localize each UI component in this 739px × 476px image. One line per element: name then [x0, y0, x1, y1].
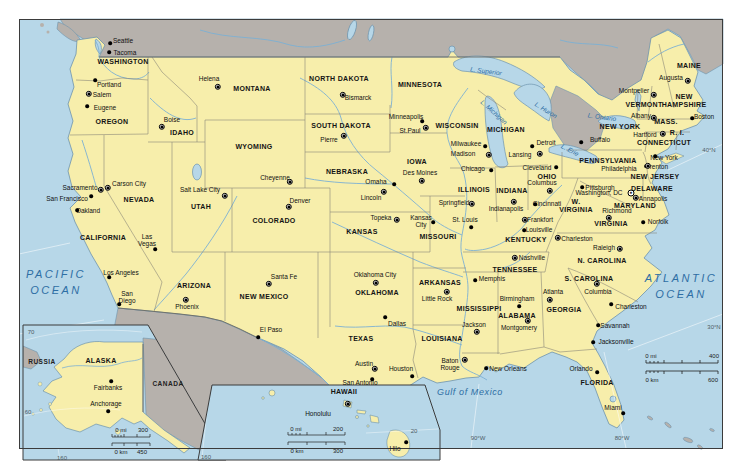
state-label: R. I. — [670, 129, 684, 137]
city-label: Santa Fe — [271, 273, 297, 280]
city-label: Cheyenne — [260, 174, 290, 181]
state-label: UTAH — [191, 203, 211, 211]
city-label: Nashville — [519, 254, 545, 261]
graticule-label: 20 — [411, 428, 418, 435]
city-marker — [106, 409, 110, 413]
scale-label: 450 — [137, 449, 147, 456]
capital-marker — [594, 281, 600, 287]
city-label: Milwaukee — [451, 140, 482, 147]
city-label: Oklahoma City — [354, 271, 397, 278]
city-marker — [392, 182, 396, 186]
city-marker — [117, 302, 121, 306]
city-label: St.Paul — [400, 127, 421, 134]
state-label: KENTUCKY — [505, 236, 546, 244]
ocean-label: ATLANTIC OCEAN — [645, 271, 717, 303]
city-label: Las Vegas — [138, 233, 156, 248]
city-marker — [431, 220, 435, 224]
city-label: Frankfort — [527, 216, 553, 223]
capital-marker — [522, 217, 528, 223]
city-label: Louisville — [526, 226, 553, 233]
capital-marker — [617, 246, 623, 252]
capital-marker — [266, 281, 272, 287]
city-label: Kansas City — [410, 214, 432, 229]
state-label: NEVADA — [124, 196, 155, 204]
state-label: W. VIRGINIA — [559, 198, 593, 214]
capital-marker — [547, 188, 553, 194]
state-label: MARYLAND — [614, 202, 656, 210]
city-label: Philadelphia — [601, 165, 636, 172]
capital-marker — [555, 235, 561, 241]
state-label: MINNESOTA — [398, 81, 442, 89]
city-marker — [473, 278, 477, 282]
city-label: Carson City — [112, 180, 146, 187]
city-label: Charleston — [615, 303, 646, 310]
state-label: ARKANSAS — [419, 279, 461, 287]
capital-marker — [287, 179, 293, 185]
state-label: ARIZONA — [177, 282, 211, 290]
city-marker — [484, 366, 488, 370]
sea-label: Gulf of Mexico — [437, 387, 503, 397]
city-label: Anchorage — [90, 400, 121, 407]
city-label: Baton Rouge — [440, 357, 459, 372]
state-label: KANSAS — [346, 228, 377, 236]
scale-label: 600 — [708, 377, 718, 384]
city-marker — [641, 220, 645, 224]
lake-label: L. Erie — [560, 142, 580, 157]
city-label: Springfield — [439, 199, 470, 206]
city-label: Boston — [694, 113, 714, 120]
city-label: Seattle — [113, 37, 133, 44]
capital-marker — [345, 401, 351, 407]
us-reference-map: WASHINGTONOREGONIDAHOMONTANAWYOMINGNORTH… — [0, 0, 739, 476]
city-marker — [533, 202, 537, 206]
city-label: Montgomery — [501, 324, 537, 331]
scale-label: 0 km — [290, 448, 303, 455]
scale-label: 300 — [333, 448, 343, 455]
capital-marker — [286, 204, 292, 210]
capital-marker — [381, 189, 387, 195]
city-label: Omaha — [365, 178, 386, 185]
city-label: Helena — [199, 75, 220, 82]
state-label: ALASKA — [86, 357, 117, 365]
state-label: HAWAII — [331, 388, 358, 396]
city-label: Washington, DC — [575, 189, 622, 196]
city-label: Denver — [290, 197, 311, 204]
lake-label: L. Michigan — [479, 98, 509, 126]
state-label: IDAHO — [170, 129, 194, 137]
city-marker — [410, 374, 414, 378]
capital-marker — [512, 255, 518, 261]
state-label: OKLAHOMA — [355, 289, 399, 297]
lake-label: L. Ontario — [587, 111, 616, 122]
city-marker — [404, 440, 408, 444]
capital-marker — [651, 115, 657, 121]
state-label: TEXAS — [349, 335, 374, 343]
city-marker — [595, 370, 599, 374]
city-marker — [579, 140, 583, 144]
city-label: Salem — [93, 91, 111, 98]
capital-marker — [537, 151, 543, 157]
scale-label: 0 km — [114, 449, 127, 456]
city-marker — [75, 208, 79, 212]
city-label: St. Louis — [452, 216, 477, 223]
graticule-label: 40°N — [702, 147, 715, 154]
city-label: Little Rock — [422, 295, 452, 302]
city-label: Fairbanks — [94, 384, 123, 391]
city-label: Salt Lake City — [180, 186, 220, 193]
capital-marker — [105, 185, 111, 191]
scale-label: 0 mi — [645, 353, 656, 360]
scale-label: 200 — [333, 426, 343, 433]
state-label: VIRGINIA — [594, 220, 628, 228]
scale-label: 0 mi — [115, 427, 126, 434]
city-label: Hilo — [389, 445, 400, 452]
city-label: San Diego — [119, 290, 136, 305]
scale-label: 0 km — [645, 377, 658, 384]
capital-marker — [685, 78, 691, 84]
city-label: Des Moines — [403, 169, 437, 176]
graticule-label: 160 — [57, 455, 67, 462]
city-marker — [85, 104, 89, 108]
city-label: Honolulu — [305, 410, 331, 417]
capital-marker — [419, 178, 425, 184]
city-label: Topeka — [371, 214, 392, 221]
city-marker — [153, 247, 157, 251]
city-label: Jackson — [462, 321, 486, 328]
capital-marker — [86, 91, 92, 97]
